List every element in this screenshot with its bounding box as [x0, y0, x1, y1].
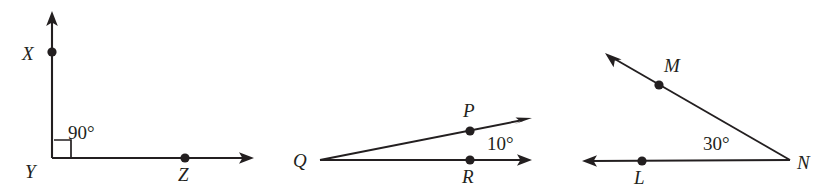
ray-nl [590, 160, 790, 161]
point-label-p: P [462, 100, 475, 121]
point-label-x: X [21, 43, 35, 64]
diagram-angle-xyz: X Y Z 90° [21, 11, 254, 185]
point-label-m: M [663, 55, 681, 76]
angle-measure-label-xyz: 90° [68, 122, 95, 143]
point-label-l: L [633, 167, 645, 188]
point-dot-x [47, 47, 56, 56]
arrow-head-nm-icon [605, 53, 622, 67]
point-label-z: Z [178, 164, 189, 185]
angle-measure-label-pqr: 10° [487, 133, 514, 154]
angle-measure-label-mnl: 30° [703, 133, 730, 154]
diagram-angle-pqr: Q P R 10° [293, 100, 532, 187]
point-dot-p [465, 126, 474, 135]
angle-diagram-figure: X Y Z 90° Q P R 10° M [0, 0, 836, 194]
point-label-n: N [796, 152, 811, 173]
angle-diagram-canvas: X Y Z 90° Q P R 10° M [0, 0, 836, 194]
point-dot-m [654, 80, 663, 89]
point-label-y: Y [25, 161, 38, 182]
point-dot-z [180, 153, 189, 162]
point-label-r: R [461, 166, 474, 187]
diagram-angle-mnl: M N L 30° [582, 53, 811, 188]
point-dot-l [637, 156, 646, 165]
ray-nm [613, 58, 790, 160]
point-dot-r [465, 155, 474, 164]
point-label-q: Q [293, 150, 307, 171]
